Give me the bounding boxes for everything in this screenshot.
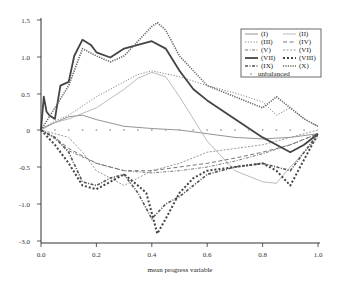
unbalanced-marker [123, 129, 125, 131]
y-tick-label: 1.5 [21, 17, 30, 25]
unbalanced-marker [179, 129, 181, 131]
x-tick-label: 0.8 [258, 251, 267, 259]
unbalanced-marker [68, 129, 70, 131]
legend-label: unbalanced [258, 70, 290, 78]
y-tick-label: -1.0 [19, 201, 31, 209]
series-line-4 [41, 130, 318, 171]
series-line-2 [41, 72, 318, 183]
unbalanced-marker [276, 129, 278, 131]
x-tick-label: 0.0 [37, 251, 46, 259]
legend-label: (IX) [261, 62, 274, 70]
unbalanced-marker [54, 129, 56, 131]
legend-label: (III) [261, 38, 273, 46]
legend-label: (II) [299, 30, 309, 38]
unbalanced-marker [165, 129, 167, 131]
unbalanced-marker [206, 129, 208, 131]
y-tick-label: -3.0 [19, 238, 31, 246]
legend-label: (VI) [299, 46, 312, 54]
x-tick-label: 1.0 [314, 251, 323, 259]
y-ticks: 1.51.00.50-0.5-1.0-3.0 [19, 17, 41, 246]
series-line-9 [41, 130, 318, 219]
x-ticks: 0.00.20.40.60.81.0 [37, 243, 323, 259]
legend-label: (IV) [299, 38, 312, 46]
series-line-5 [41, 130, 318, 173]
unbalanced-marker [220, 129, 222, 131]
x-tick-label: 0.6 [203, 251, 212, 259]
y-tick-label: 0 [27, 127, 31, 135]
legend-marker [250, 73, 252, 75]
y-tick-label: 0.5 [21, 91, 30, 99]
legend-label: (VII) [261, 54, 276, 62]
legend: (I)(II)(III)(IV)(V)(VI)(VII)(VIII)(IX)(X… [241, 29, 321, 78]
unbalanced-marker [248, 129, 250, 131]
legend-label: (X) [299, 62, 309, 70]
unbalanced-marker [82, 129, 84, 131]
unbalanced-marker [262, 129, 264, 131]
x-tick-label: 0.4 [147, 251, 156, 259]
line-chart: 1.51.00.50-0.5-1.0-3.0 0.00.20.40.60.81.… [0, 0, 340, 283]
unbalanced-marker [137, 129, 139, 131]
series-line-1 [41, 115, 318, 139]
unbalanced-marker [303, 129, 305, 131]
x-axis-label: mean progress variable [148, 266, 213, 274]
unbalanced-marker [96, 129, 98, 131]
legend-label: (V) [261, 46, 271, 54]
unbalanced-marker [151, 129, 153, 131]
y-tick-label: 1.0 [21, 54, 30, 62]
unbalanced-marker [192, 129, 194, 131]
series-line-3 [41, 71, 318, 130]
unbalanced-marker [289, 129, 291, 131]
legend-label: (I) [261, 30, 269, 38]
y-tick-label: -0.5 [19, 164, 31, 172]
unbalanced-marker [234, 129, 236, 131]
x-tick-label: 0.2 [92, 251, 101, 259]
unbalanced-marker [109, 129, 111, 131]
legend-label: (VIII) [299, 54, 316, 62]
